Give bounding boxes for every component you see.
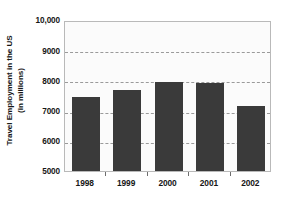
y-tick-label: 7000 bbox=[22, 107, 60, 116]
bar-2001 bbox=[196, 83, 224, 171]
y-axis-title-line-1: Travel Employment in the US bbox=[5, 35, 16, 145]
x-tick-label: 1999 bbox=[105, 178, 146, 188]
bar-1998 bbox=[72, 97, 100, 171]
y-tick-label: 5000 bbox=[22, 167, 60, 176]
x-axis-ticks bbox=[64, 172, 271, 177]
y-axis-tick-labels: 10,000 9000 8000 7000 6000 5000 bbox=[22, 14, 60, 180]
bar-2000 bbox=[155, 82, 183, 171]
y-tick-label: 8000 bbox=[22, 77, 60, 86]
x-axis-tick bbox=[105, 172, 106, 176]
bar-chart-figure: Travel Employment in the US (in millions… bbox=[0, 0, 281, 203]
x-tick-label: 1998 bbox=[64, 178, 105, 188]
y-tick-label: 9000 bbox=[22, 47, 60, 56]
x-tick-label: 2002 bbox=[230, 178, 271, 188]
x-axis-tick bbox=[230, 172, 231, 176]
bar-1999 bbox=[113, 90, 141, 171]
bar-2002 bbox=[237, 106, 265, 171]
x-axis-tick bbox=[188, 172, 189, 176]
y-tick-label: 10,000 bbox=[22, 16, 60, 25]
x-axis-tick-labels: 19981999200020012002 bbox=[64, 178, 271, 194]
y-tick-label: 6000 bbox=[22, 137, 60, 146]
bars-layer bbox=[65, 22, 270, 171]
plot-area bbox=[64, 21, 271, 172]
x-tick-label: 2001 bbox=[188, 178, 229, 188]
x-axis-tick bbox=[147, 172, 148, 176]
x-tick-label: 2000 bbox=[147, 178, 188, 188]
